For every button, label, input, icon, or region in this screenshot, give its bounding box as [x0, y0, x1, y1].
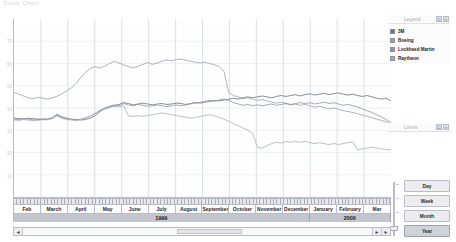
limits-panel-title: Limits [404, 125, 418, 130]
month-label-november[interactable]: November [256, 205, 283, 213]
limits-close-icon[interactable]: × [443, 124, 449, 130]
month-label-feb[interactable]: Feb [14, 205, 41, 213]
month-label-january[interactable]: January [310, 205, 337, 213]
range-button-day[interactable]: Day [404, 180, 450, 192]
range-button-year[interactable]: Year [404, 225, 450, 237]
limits-panel: Limits □ × [388, 123, 450, 132]
legend-item[interactable]: 3M [390, 27, 450, 36]
scrollbar-track[interactable] [23, 228, 372, 235]
legend-panel-header: Legend □ × [388, 15, 450, 24]
x-axis[interactable]: FebMarchAprilMayJuneJulyAugustSeptemberO… [13, 198, 391, 222]
zoom-slider-tick [396, 198, 399, 199]
scroll-right-arrow-icon[interactable]: ► [372, 228, 381, 235]
zoom-slider[interactable] [390, 180, 398, 238]
legend-list: 3MBoeingLockheed MartinRaytheon [388, 24, 450, 63]
range-button-month[interactable]: Month [404, 210, 450, 222]
legend-checkbox-icon[interactable] [390, 29, 395, 34]
x-axis-month-row[interactable]: FebMarchAprilMayJuneJulyAugustSeptemberO… [13, 205, 391, 214]
scroll-left-arrow-icon[interactable]: ◄ [14, 228, 23, 235]
y-axis-tick-label: 30 [7, 128, 12, 133]
month-label-may[interactable]: May [95, 205, 122, 213]
legend-item[interactable]: Boeing [390, 36, 450, 45]
chart-canvas [14, 19, 391, 197]
legend-item-label: 3M [398, 29, 404, 34]
legend-minimize-icon[interactable]: □ [436, 16, 442, 22]
month-label-september[interactable]: September [202, 205, 229, 213]
legend-item-label: Lockheed Martin [398, 47, 435, 52]
legend-item[interactable]: Raytheon [390, 54, 450, 63]
month-label-march[interactable]: March [41, 205, 68, 213]
x-axis-tick-strip [13, 198, 391, 205]
month-label-october[interactable]: October [229, 205, 256, 213]
year-label-2000[interactable]: 2000 [310, 214, 391, 222]
legend-item[interactable]: Lockheed Martin [390, 45, 450, 54]
scroll-right-arrow-icon-2[interactable]: ► [381, 228, 390, 235]
zoom-slider-tick [396, 212, 399, 213]
zoom-slider-knob[interactable] [390, 226, 398, 231]
month-label-august[interactable]: August [176, 205, 203, 213]
month-label-december[interactable]: December [283, 205, 310, 213]
legend-checkbox-icon[interactable] [390, 47, 395, 52]
legend-checkbox-icon[interactable] [390, 56, 395, 61]
legend-close-icon[interactable]: × [443, 16, 449, 22]
y-axis-tick-label: 70 [7, 39, 12, 44]
year-label-1999[interactable]: 1999 [14, 214, 310, 222]
y-axis-tick-label: 60 [7, 61, 12, 66]
y-axis-tick-label: 50 [7, 84, 12, 89]
legend-item-label: Raytheon [398, 56, 419, 61]
page-title: Stock Chart [3, 0, 39, 6]
y-axis-tick-label: 40 [7, 106, 12, 111]
month-label-february[interactable]: February [337, 205, 364, 213]
y-axis-tick-label: 10 [7, 173, 12, 178]
scrollbar-thumb[interactable] [177, 229, 242, 234]
legend-panel: Legend □ × 3MBoeingLockheed MartinRaythe… [388, 15, 450, 63]
range-button-week[interactable]: Week [404, 195, 450, 207]
legend-window-buttons: □ × [436, 16, 449, 22]
chart-svg [14, 19, 391, 197]
stock-chart-app: Stock Chart 70605040302010 FebMarchApril… [0, 0, 456, 242]
legend-checkbox-icon[interactable] [390, 38, 395, 43]
y-axis-labels: 70605040302010 [0, 19, 13, 198]
range-controls: DayWeekMonthYear [396, 180, 452, 238]
chart-plot-area[interactable] [13, 19, 391, 198]
legend-item-label: Boeing [398, 38, 414, 43]
limits-minimize-icon[interactable]: □ [436, 124, 442, 130]
x-axis-year-row[interactable]: 19992000 [13, 214, 391, 222]
month-label-july[interactable]: July [149, 205, 176, 213]
zoom-slider-tick [396, 184, 399, 185]
limits-panel-header: Limits □ × [388, 123, 450, 132]
legend-panel-title: Legend [404, 17, 421, 22]
y-axis-tick-label: 20 [7, 151, 12, 156]
month-label-april[interactable]: April [68, 205, 95, 213]
limits-window-buttons: □ × [436, 124, 449, 130]
month-label-june[interactable]: June [122, 205, 149, 213]
month-label-mar[interactable]: Mar [364, 205, 391, 213]
horizontal-scrollbar[interactable]: ◄ ► ► [13, 227, 391, 236]
